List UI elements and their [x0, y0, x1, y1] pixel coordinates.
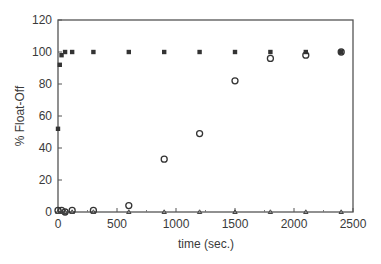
x-tick-label: 0 — [55, 217, 62, 231]
filled-square-marker — [268, 50, 272, 54]
y-tick-label: 40 — [39, 141, 53, 155]
filled-square-marker — [56, 127, 60, 131]
x-tick-label: 1000 — [163, 217, 190, 231]
plot-frame — [58, 20, 353, 212]
filled-square-marker — [58, 63, 62, 67]
y-tick-label: 120 — [32, 13, 52, 27]
y-tick-label: 20 — [39, 173, 53, 187]
open-circle-marker — [232, 78, 238, 84]
filled-square-marker — [197, 50, 201, 54]
open-circle-marker — [267, 55, 273, 61]
x-tick-label: 1500 — [222, 217, 249, 231]
filled-square-marker — [63, 50, 67, 54]
x-tick-label: 2500 — [340, 217, 367, 231]
y-tick-label: 60 — [39, 109, 53, 123]
filled-square-marker — [91, 50, 95, 54]
x-tick-label: 2000 — [281, 217, 308, 231]
y-tick-label: 100 — [32, 45, 52, 59]
scatter-chart: 020406080100120 05001000150020002500 tim… — [0, 0, 381, 264]
filled-square-marker — [162, 50, 166, 54]
open-circle-marker — [161, 156, 167, 162]
y-axis-title: % Float-Off — [13, 85, 27, 146]
y-tick-label: 0 — [45, 205, 52, 219]
filled-square-marker — [70, 50, 74, 54]
x-axis-title: time (sec.) — [178, 237, 234, 251]
open-circle-marker — [126, 203, 132, 209]
x-tick-label: 500 — [107, 217, 127, 231]
open-circle-marker — [197, 131, 203, 137]
y-tick-label: 80 — [39, 77, 53, 91]
data-points — [55, 49, 344, 215]
filled-square-marker — [339, 50, 343, 54]
filled-square-marker — [233, 50, 237, 54]
filled-square-marker — [127, 50, 131, 54]
